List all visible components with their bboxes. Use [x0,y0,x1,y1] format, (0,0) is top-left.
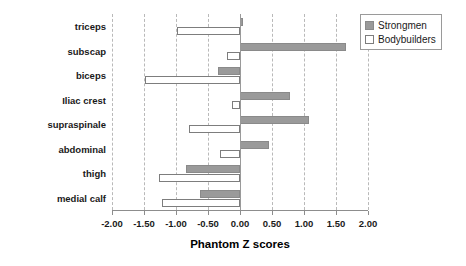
y-axis-label-medial-calf: medial calf [1,192,106,203]
x-axis-tick [272,211,273,215]
bar-bodybuilders [177,27,240,35]
x-axis: -2.00-1.50-1.00-0.500.000.501.001.502.00 [112,210,368,211]
x-axis-tick [304,211,305,215]
x-axis-tick-label: -0.50 [197,218,219,229]
x-axis-tick [240,211,241,215]
y-axis-label-iliac-crest: Iliac crest [1,94,106,105]
plot-area [112,14,368,210]
legend-label-bodybuilders: Bodybuilders [378,34,436,45]
y-axis-category-labels: tricepssubscapbicepsIliac crestsupraspin… [0,14,106,210]
chart-legend: Strongmen Bodybuilders [360,14,442,50]
bar-strongmen [240,116,309,124]
bar-bodybuilders [145,76,240,84]
x-axis-tick-label: 0.50 [263,218,282,229]
legend-label-strongmen: Strongmen [378,20,427,31]
x-axis-tick-label: 1.00 [295,218,314,229]
x-axis-tick [208,211,209,215]
zero-axis-line [240,14,241,210]
bar-bodybuilders [220,150,240,158]
y-axis-label-biceps: biceps [1,70,106,81]
x-axis-title: Phantom Z scores [112,238,368,250]
y-axis-label-triceps: triceps [1,21,106,32]
legend-swatch-bodybuilders-icon [365,35,374,44]
x-axis-tick [144,211,145,215]
x-axis-tick-label: -1.00 [165,218,187,229]
bar-strongmen [240,92,290,100]
bar-strongmen [240,141,269,149]
y-axis-label-thigh: thigh [1,168,106,179]
bar-bodybuilders [189,125,240,133]
bar-bodybuilders [227,52,240,60]
x-axis-tick [176,211,177,215]
y-axis-label-abdominal: abdominal [1,143,106,154]
x-axis-tick-label: -1.50 [133,218,155,229]
y-axis-label-subscap: subscap [1,45,106,56]
x-axis-tick-label: 2.00 [359,218,378,229]
bar-strongmen [240,43,346,51]
x-axis-tick-label: -2.00 [101,218,123,229]
legend-item-bodybuilders: Bodybuilders [365,32,436,46]
bar-bodybuilders [162,199,240,207]
bar-strongmen [218,67,240,75]
bar-strongmen [186,165,240,173]
x-axis-tick [112,211,113,215]
x-axis-tick [368,211,369,215]
x-axis-tick-label: 1.50 [327,218,346,229]
x-axis-tick [336,211,337,215]
bar-bodybuilders [159,174,240,182]
bar-bodybuilders [232,101,240,109]
y-axis-label-supraspinale: supraspinale [1,119,106,130]
bar-strongmen [200,190,240,198]
legend-item-strongmen: Strongmen [365,18,436,32]
x-axis-tick-label: 0.00 [231,218,250,229]
phantom-z-scores-chart: tricepssubscapbicepsIliac crestsupraspin… [0,0,466,266]
legend-swatch-strongmen-icon [365,21,374,30]
